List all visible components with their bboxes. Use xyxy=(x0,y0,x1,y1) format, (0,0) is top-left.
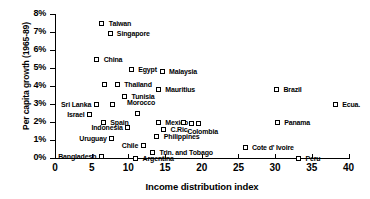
data-point-marker[interactable] xyxy=(161,127,166,132)
data-point-marker[interactable] xyxy=(133,156,138,161)
data-point-marker[interactable] xyxy=(99,21,104,26)
x-tick-label: 35 xyxy=(297,162,327,173)
data-point-label: Ecua. xyxy=(342,101,360,108)
data-point-label: Peru xyxy=(305,155,320,162)
x-axis-title: Income distribution index xyxy=(55,181,349,192)
data-point-label: Chile xyxy=(0,142,138,149)
y-tick-mark xyxy=(50,68,55,69)
data-point-label: Egypt xyxy=(138,66,157,73)
y-tick-label: 8% xyxy=(0,8,46,18)
x-tick-label: 20 xyxy=(187,162,217,173)
data-point-marker[interactable] xyxy=(196,121,201,126)
y-tick-label: 5% xyxy=(0,62,46,72)
data-point-marker[interactable] xyxy=(333,102,338,107)
data-point-marker[interactable] xyxy=(115,82,120,87)
data-point-marker[interactable] xyxy=(181,120,186,125)
data-point-marker[interactable] xyxy=(243,145,248,150)
data-point-label: Brazil xyxy=(283,86,301,93)
data-point-marker[interactable] xyxy=(94,57,99,62)
data-point-label: C.Ric. xyxy=(170,126,189,133)
scatter-chart: Per capita growth (1965-89) Income distr… xyxy=(0,0,370,199)
data-point-marker[interactable] xyxy=(135,111,140,116)
data-point-marker[interactable] xyxy=(102,82,107,87)
data-point-label: Israel xyxy=(0,111,85,118)
data-point-marker[interactable] xyxy=(129,67,134,72)
data-point-label: Singapore xyxy=(117,30,150,37)
data-point-label: Cote d' Ivoire xyxy=(252,144,294,151)
x-tick-mark xyxy=(349,154,350,159)
data-point-marker[interactable] xyxy=(108,31,113,36)
data-point-marker[interactable] xyxy=(125,125,130,130)
y-tick-mark xyxy=(50,122,55,123)
x-tick-label: 15 xyxy=(150,162,180,173)
data-point-marker[interactable] xyxy=(274,87,279,92)
data-point-label: Indonesia xyxy=(0,124,123,131)
x-tick-label: 10 xyxy=(113,162,143,173)
data-point-marker[interactable] xyxy=(156,87,161,92)
data-point-marker[interactable] xyxy=(109,136,114,141)
data-point-label: Bangladesh xyxy=(0,153,96,160)
x-tick-mark xyxy=(275,154,276,159)
y-tick-mark xyxy=(50,32,55,33)
data-point-label: Taiwan xyxy=(109,20,131,27)
data-point-marker[interactable] xyxy=(154,134,159,139)
data-point-marker[interactable] xyxy=(189,121,194,126)
data-point-label: Malaysia xyxy=(169,68,197,75)
data-point-marker[interactable] xyxy=(275,120,280,125)
data-point-marker[interactable] xyxy=(156,120,161,125)
data-point-marker[interactable] xyxy=(160,69,165,74)
data-point-label: Uruguay xyxy=(0,135,107,142)
data-point-marker[interactable] xyxy=(87,112,92,117)
x-tick-mark xyxy=(238,154,239,159)
data-point-label: Mauritius xyxy=(165,86,195,93)
x-tick-label: 40 xyxy=(334,162,364,173)
x-tick-mark xyxy=(128,154,129,159)
y-tick-mark xyxy=(50,14,55,15)
data-point-label: Thailand xyxy=(124,81,152,88)
data-point-marker[interactable] xyxy=(141,143,146,148)
y-tick-mark xyxy=(50,50,55,51)
y-tick-mark xyxy=(50,86,55,87)
x-tick-label: 30 xyxy=(260,162,290,173)
data-point-label: Philippines xyxy=(164,133,200,140)
data-point-marker[interactable] xyxy=(99,154,104,159)
x-tick-label: 0 xyxy=(40,162,70,173)
y-tick-label: 6% xyxy=(0,44,46,54)
x-tick-label: 25 xyxy=(223,162,253,173)
data-point-marker[interactable] xyxy=(296,156,301,161)
data-point-label: Argentina xyxy=(143,155,174,162)
y-tick-label: 4% xyxy=(0,80,46,90)
y-tick-label: 7% xyxy=(0,26,46,36)
data-point-label: China xyxy=(104,56,123,63)
data-point-label: Panama xyxy=(284,119,310,126)
data-point-label: Morocco xyxy=(0,99,155,106)
x-tick-label: 5 xyxy=(77,162,107,173)
